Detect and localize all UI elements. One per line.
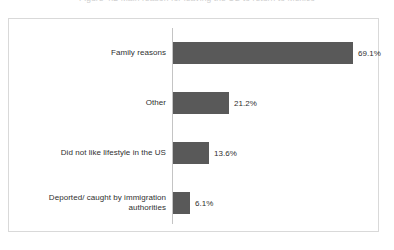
bar xyxy=(173,192,190,214)
bar xyxy=(173,142,209,164)
category-label: Did not like lifestyle in the US xyxy=(0,128,166,178)
category-label: Family reasons xyxy=(0,28,166,78)
bar-row: Deported/ caught by immigration authorit… xyxy=(9,178,378,228)
bar-value-label: 21.2% xyxy=(234,92,257,114)
bar-row: Other 21.2% xyxy=(9,78,378,128)
bar xyxy=(173,92,229,114)
category-label: Deported/ caught by immigration authorit… xyxy=(0,178,166,228)
plot-area: Family reasons 69.1% Other 21.2% Did not… xyxy=(9,19,378,231)
chart-screenshot: Figure 4.2 Main reason for leaving the U… xyxy=(0,0,394,250)
bar-row: Family reasons 69.1% xyxy=(9,28,378,78)
bar-value-label: 69.1% xyxy=(358,42,381,64)
bar-value-label: 6.1% xyxy=(195,192,213,214)
bar-value-label: 13.6% xyxy=(214,142,237,164)
category-label: Other xyxy=(0,78,166,128)
bar-row: Did not like lifestyle in the US 13.6% xyxy=(9,128,378,178)
chart-frame: Family reasons 69.1% Other 21.2% Did not… xyxy=(8,18,379,232)
cutoff-figure-caption: Figure 4.2 Main reason for leaving the U… xyxy=(0,0,394,5)
bar xyxy=(173,42,353,64)
